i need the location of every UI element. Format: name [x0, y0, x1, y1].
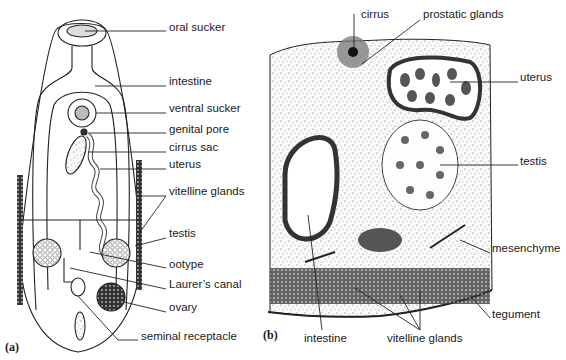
label-mesenchyme: mesenchyme — [492, 243, 560, 255]
label-intestine: intestine — [169, 76, 212, 88]
label-tegument: tegument — [492, 309, 540, 321]
label-ovary: ovary — [169, 302, 197, 314]
label-oral-sucker: oral sucker — [169, 22, 225, 34]
panel-b-cross-section — [268, 36, 492, 317]
label-laurers-canal: Laurer’s canal — [169, 279, 241, 291]
panel-b-letter: (b) — [263, 328, 278, 343]
panel-a-letter: (a) — [5, 340, 19, 355]
label-genital-pore: genital pore — [169, 124, 229, 136]
label-seminal-receptacle: seminal receptacle — [141, 331, 237, 343]
label-prostatic-glands: prostatic glands — [423, 9, 504, 21]
ovary-shape — [97, 283, 125, 311]
cirrus-sac-shape — [62, 133, 91, 176]
label-vitelline-glands-b: vitelline glands — [387, 333, 462, 345]
label-uterus-b: uterus — [520, 72, 552, 84]
testis-left — [33, 239, 61, 267]
label-cirrus-sac: cirrus sac — [169, 142, 218, 154]
testis-right — [102, 239, 130, 267]
label-ventral-sucker: ventral sucker — [169, 103, 241, 115]
label-ootype: ootype — [169, 259, 204, 271]
trematode-anatomy-diagram — [0, 0, 566, 360]
label-uterus: uterus — [169, 159, 201, 171]
intestine-b-shape — [285, 138, 337, 239]
cirrus-shape — [348, 47, 358, 57]
panel-a-whole-fluke — [17, 20, 142, 352]
label-vitelline-glands: vitelline glands — [169, 186, 244, 198]
label-cirrus: cirrus — [361, 9, 389, 21]
label-testis: testis — [169, 228, 196, 240]
label-testis-b: testis — [520, 156, 547, 168]
label-intestine-b: intestine — [304, 333, 347, 345]
